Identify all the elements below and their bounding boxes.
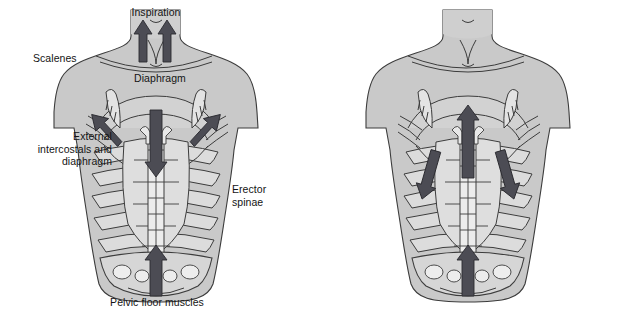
label-diaphragm: Diaphragm — [100, 72, 220, 85]
expiration-torso-illustration — [312, 0, 624, 316]
label-pelvic-floor-muscles-inspiration: Pelvic floor muscles — [72, 296, 242, 309]
panel-expiration: Expiration Obliquus externus and Internu… — [312, 0, 624, 316]
label-scalenes: Scalenes — [33, 52, 113, 65]
anatomy-figure: Inspiration Scalenes Diaphragm External … — [0, 0, 624, 316]
heading-inspiration: Inspiration — [76, 6, 236, 19]
label-erector-spinae-inspiration: Erector spinae — [232, 183, 302, 208]
panel-inspiration: Inspiration Scalenes Diaphragm External … — [0, 0, 312, 316]
label-external-intercostals-and-diaphragm: External intercostals and diaphragm — [16, 130, 112, 168]
